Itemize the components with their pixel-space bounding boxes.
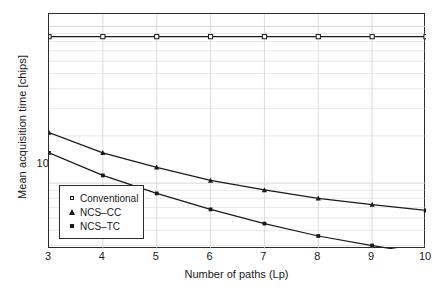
x-tick-label: 4 <box>99 250 105 262</box>
y-axis-label: Mean acquisition time [chips] <box>16 27 28 227</box>
filled-triangle-icon <box>66 209 78 215</box>
legend-item-2[interactable]: NCS–CC <box>60 205 143 219</box>
legend-item-label: Conventional <box>80 193 138 204</box>
filled-square-icon <box>66 224 78 228</box>
legend-item-3[interactable]: NCS–TC <box>60 219 143 233</box>
x-tick-label: 3 <box>45 250 51 262</box>
x-axis-label: Number of paths (Lp) <box>48 268 425 280</box>
open-square-icon <box>66 196 78 200</box>
x-tick-label: 6 <box>207 250 213 262</box>
x-tick-label: 10 <box>419 250 431 262</box>
x-tick-label: 9 <box>368 250 374 262</box>
legend-item-1[interactable]: Conventional <box>60 191 143 205</box>
chart-figure: Mean acquisition time [chips] 106 345678… <box>0 0 442 290</box>
legend-item-label: NCS–CC <box>80 207 121 218</box>
legend[interactable]: ConventionalNCS–CCNCS–TC <box>59 185 144 239</box>
x-tick-label: 7 <box>260 250 266 262</box>
legend-item-label: NCS–TC <box>80 221 120 232</box>
x-tick-label: 8 <box>314 250 320 262</box>
x-tick-label: 5 <box>153 250 159 262</box>
y-tick-base: 10 <box>37 157 49 169</box>
